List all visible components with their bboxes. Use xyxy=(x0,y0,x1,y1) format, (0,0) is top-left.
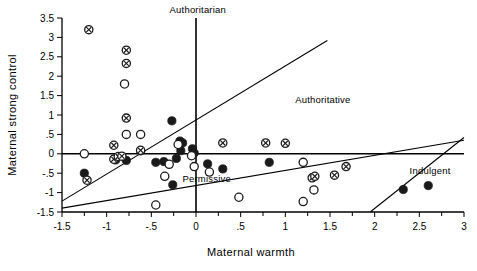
data-point-crossed xyxy=(311,172,319,180)
x-tick-label: .5 xyxy=(236,221,245,232)
data-point-open xyxy=(190,163,198,171)
quadrant-label-indulgent: Indulgent xyxy=(410,165,451,176)
permissive-lower-divider xyxy=(62,140,464,208)
data-point-filled xyxy=(168,117,176,125)
quadrant-label-permissive: Permissive xyxy=(182,173,230,184)
data-point-filled xyxy=(152,158,160,166)
data-point-filled xyxy=(424,182,432,190)
data-point-crossed xyxy=(281,139,289,147)
y-axis-title: Maternal strong control xyxy=(6,54,18,176)
data-point-open xyxy=(120,80,128,88)
x-tick-label: -1.5 xyxy=(53,221,71,232)
x-tick-label: 2.5 xyxy=(412,221,426,232)
data-point-crossed xyxy=(342,163,350,171)
data-point-filled xyxy=(169,181,177,189)
data-point-filled xyxy=(172,154,180,162)
data-point-crossed xyxy=(122,59,130,67)
data-point-filled xyxy=(265,158,273,166)
data-point-crossed xyxy=(330,171,338,179)
data-point-open xyxy=(165,160,173,168)
y-tick-label: 3 xyxy=(48,32,54,43)
scatter-plot-figure: -1.5-1-.50.511.522.53-1.5-1-.50.511.522.… xyxy=(0,0,477,271)
data-point-crossed xyxy=(262,139,270,147)
data-point-open xyxy=(122,130,130,138)
y-tick-label: -1 xyxy=(45,187,54,198)
data-point-crossed xyxy=(85,26,93,34)
data-point-filled xyxy=(204,160,212,168)
data-point-crossed xyxy=(122,114,130,122)
data-point-filled xyxy=(399,185,407,193)
x-tick-label: -1 xyxy=(102,221,111,232)
data-point-open xyxy=(174,140,182,148)
x-tick-label: 1 xyxy=(283,221,289,232)
data-point-open xyxy=(152,201,160,209)
y-tick-label: -.5 xyxy=(42,168,54,179)
data-point-crossed xyxy=(83,176,91,184)
plot-canvas: -1.5-1-.50.511.522.53-1.5-1-.50.511.522.… xyxy=(0,0,477,271)
y-tick-label: 2.5 xyxy=(40,51,54,62)
quadrant-label-authoritative: Authoritative xyxy=(295,94,350,105)
data-point-open xyxy=(187,152,195,160)
data-point-open xyxy=(80,150,88,158)
data-point-open xyxy=(161,172,169,180)
x-tick-label: 3 xyxy=(461,221,467,232)
y-tick-label: 2 xyxy=(48,71,54,82)
data-point-open xyxy=(299,197,307,205)
y-tick-label: -1.5 xyxy=(37,207,55,218)
quadrant-label-authoritarian: Authoritarian xyxy=(170,4,226,15)
x-tick-label: 0 xyxy=(193,221,199,232)
x-tick-label: 2 xyxy=(372,221,378,232)
y-tick-label: 3.5 xyxy=(40,13,54,24)
data-point-crossed xyxy=(110,141,118,149)
data-point-crossed xyxy=(137,146,145,154)
data-point-crossed xyxy=(122,46,130,54)
x-tick-label: 1.5 xyxy=(323,221,337,232)
y-tick-label: 1.5 xyxy=(40,90,54,101)
y-tick-label: 1 xyxy=(48,110,54,121)
data-point-open xyxy=(235,193,243,201)
data-point-crossed xyxy=(219,139,227,147)
data-point-open xyxy=(310,186,318,194)
data-point-open xyxy=(299,158,307,166)
y-tick-label: 0 xyxy=(48,148,54,159)
x-tick-label: -.5 xyxy=(145,221,157,232)
x-axis-title: Maternal warmth xyxy=(207,246,295,258)
y-tick-label: .5 xyxy=(46,129,55,140)
data-point-crossed xyxy=(118,152,126,160)
data-point-open xyxy=(137,130,145,138)
